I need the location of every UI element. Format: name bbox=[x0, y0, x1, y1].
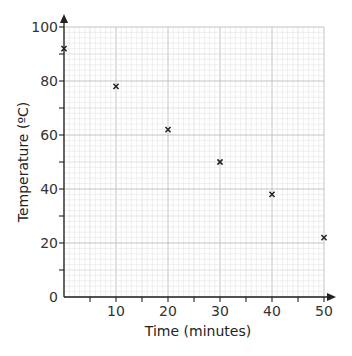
y-tick-label: 20 bbox=[40, 235, 58, 251]
y-tick-label: 60 bbox=[40, 127, 58, 143]
x-tick-label: 20 bbox=[159, 303, 177, 319]
x-tick-label: 10 bbox=[107, 303, 125, 319]
y-tick-label: 80 bbox=[40, 73, 58, 89]
x-tick-label: 40 bbox=[263, 303, 281, 319]
y-tick-label: 0 bbox=[49, 289, 58, 305]
scatter-chart: 1020304050020406080100 Time (minutes) Te… bbox=[0, 0, 352, 356]
y-axis-title: Temperature (ºC) bbox=[15, 102, 31, 223]
y-tick-label: 40 bbox=[40, 181, 58, 197]
x-tick-label: 30 bbox=[211, 303, 229, 319]
y-axis-arrow-icon bbox=[60, 14, 68, 23]
chart-grid bbox=[64, 27, 324, 297]
y-tick-label: 100 bbox=[31, 19, 58, 35]
x-axis-arrow-icon bbox=[327, 293, 336, 301]
chart-axes bbox=[60, 14, 336, 301]
x-axis-title: Time (minutes) bbox=[144, 323, 251, 339]
x-tick-label: 50 bbox=[315, 303, 333, 319]
